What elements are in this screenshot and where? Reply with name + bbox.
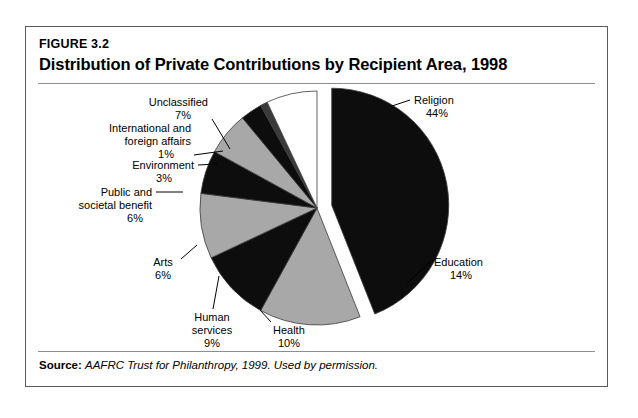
source-text: AAFRC Trust for Philanthropy, 1999. Used… <box>85 359 378 371</box>
pie-label-unclassified-line1: Unclassified <box>149 96 208 108</box>
pie-chart-area: Religion 44% Education 14% Health 10% Hu… <box>26 84 607 351</box>
pie-label-religion-line1: Religion <box>414 94 454 106</box>
pie-label-arts-line1: Arts <box>153 256 173 268</box>
source-divider <box>38 351 595 352</box>
pie-label-international-line1: International and <box>109 122 191 134</box>
pie-label-environment-line2: 3% <box>156 172 172 184</box>
pie-label-religion-line2: 44% <box>426 107 448 119</box>
figure-frame: FIGURE 3.2 Distribution of Private Contr… <box>25 26 608 387</box>
pie-label-human-services-line1: Human <box>194 311 229 323</box>
pie-label-international-line3: 1% <box>158 148 174 160</box>
pie-slice-religion[interactable] <box>332 88 449 314</box>
figure-title: Distribution of Private Contributions by… <box>39 54 607 75</box>
figure-source: Source: AAFRC Trust for Philanthropy, 19… <box>39 358 378 373</box>
pie-label-environment-line1: Environment <box>132 159 194 171</box>
figure-number: FIGURE 3.2 <box>39 37 607 52</box>
pie-slices <box>200 88 449 325</box>
pie-label-education-line2: 14% <box>450 269 472 281</box>
pie-label-public-societal-line2: societal benefit <box>79 199 152 211</box>
pie-label-health-line1: Health <box>273 324 305 336</box>
figure-header: FIGURE 3.2 Distribution of Private Contr… <box>26 27 607 75</box>
pie-label-public-societal-line3: 6% <box>127 212 143 224</box>
pie-label-international-line2: foreign affairs <box>125 135 192 147</box>
pie-label-education-line1: Education <box>434 256 483 268</box>
pie-label-human-services-line2: services <box>192 324 233 336</box>
source-label: Source: <box>39 359 82 371</box>
leader-line-human-services <box>213 276 219 309</box>
pie-label-public-societal-line1: Public and <box>101 186 152 198</box>
pie-chart-svg: Religion 44% Education 14% Health 10% Hu… <box>26 84 607 351</box>
pie-label-arts-line2: 6% <box>155 269 171 281</box>
leader-line-arts <box>181 245 197 259</box>
pie-label-human-services-line3: 9% <box>204 337 220 349</box>
pie-label-unclassified-line2: 7% <box>175 109 191 121</box>
leader-line-religion <box>392 100 410 106</box>
pie-label-health-line2: 10% <box>278 337 300 349</box>
